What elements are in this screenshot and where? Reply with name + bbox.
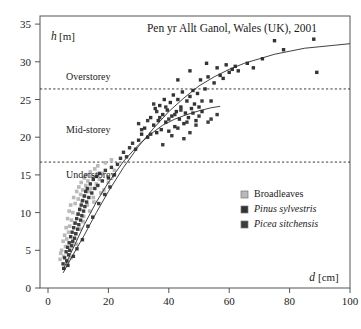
y-axis-label-unit: [m] — [59, 30, 75, 42]
data-point — [74, 232, 77, 235]
data-point — [169, 101, 172, 104]
data-point — [77, 185, 81, 189]
data-point — [161, 113, 164, 116]
data-point — [154, 107, 157, 110]
data-point — [66, 246, 69, 249]
data-point — [176, 98, 179, 101]
legend-swatch-broadleaves — [241, 191, 248, 198]
data-point — [143, 126, 146, 129]
data-point — [185, 120, 188, 123]
data-point — [93, 187, 96, 190]
data-point — [67, 230, 71, 234]
data-point — [131, 142, 134, 145]
data-point — [252, 66, 255, 69]
data-point — [77, 223, 80, 226]
data-point — [73, 237, 76, 240]
data-point — [69, 235, 72, 238]
data-point — [63, 256, 66, 259]
data-point — [182, 137, 185, 140]
data-point — [119, 157, 122, 160]
data-point — [146, 119, 149, 122]
data-point — [80, 203, 83, 206]
x-tick-label: 60 — [224, 295, 236, 307]
data-point — [167, 129, 170, 132]
legend-swatch-pinus-sylvestris — [241, 206, 248, 213]
data-point — [190, 107, 193, 110]
data-point — [82, 209, 85, 212]
data-point — [197, 105, 200, 108]
data-point — [188, 95, 191, 98]
data-point — [215, 66, 218, 69]
data-point — [158, 104, 161, 107]
y-tick-label: 20 — [20, 131, 32, 143]
data-point — [200, 99, 203, 102]
data-point — [158, 116, 161, 119]
y-tick-label: 15 — [20, 169, 32, 181]
data-point — [58, 258, 62, 262]
data-point — [282, 48, 285, 51]
x-tick-label: 20 — [103, 295, 115, 307]
data-point — [209, 117, 212, 120]
data-point — [215, 113, 218, 116]
data-point — [176, 126, 179, 129]
y-tick-label: 25 — [20, 94, 32, 106]
data-point — [203, 87, 206, 90]
data-point — [161, 143, 164, 146]
data-point — [167, 117, 170, 120]
data-point — [73, 221, 76, 224]
data-point — [63, 233, 67, 237]
data-point — [92, 196, 96, 200]
y-tick-label: 30 — [20, 56, 32, 68]
data-point — [170, 134, 173, 137]
data-point — [221, 77, 224, 80]
data-point — [312, 37, 315, 40]
data-point — [173, 125, 176, 128]
data-point — [188, 69, 191, 72]
data-point — [122, 151, 125, 154]
y-axis-label-symbol: h — [51, 30, 57, 42]
data-point — [155, 131, 158, 134]
x-axis-ticks — [48, 288, 350, 293]
data-point — [73, 202, 77, 206]
data-point — [72, 226, 75, 229]
data-point — [160, 128, 163, 131]
data-point — [89, 187, 93, 191]
x-tick-label: 40 — [163, 295, 175, 307]
data-point — [194, 123, 197, 126]
plot-frame — [40, 16, 350, 288]
data-point — [83, 194, 86, 197]
x-tick-label: 100 — [342, 295, 359, 307]
data-point — [116, 163, 119, 166]
data-point — [137, 139, 140, 142]
data-point — [224, 63, 227, 66]
legend-label-broadleaves: Broadleaves — [254, 188, 304, 199]
y-tick-label: 5 — [26, 244, 32, 256]
data-point — [78, 208, 81, 211]
data-point — [67, 241, 70, 244]
data-point — [194, 119, 197, 122]
data-point — [164, 105, 167, 108]
x-axis-label-unit: [cm] — [318, 271, 339, 283]
data-point — [70, 231, 73, 234]
data-point — [140, 128, 143, 131]
x-tick-label: 0 — [45, 295, 51, 307]
data-point — [61, 239, 65, 243]
data-point — [67, 209, 71, 213]
data-point — [64, 226, 68, 230]
data-point — [83, 205, 86, 208]
data-point — [128, 146, 131, 149]
data-point — [315, 71, 318, 74]
data-point — [187, 116, 190, 119]
data-point — [179, 105, 182, 108]
data-point — [77, 212, 80, 215]
data-point — [96, 164, 100, 168]
data-point — [149, 116, 152, 119]
data-point — [64, 250, 67, 253]
legend-label-pinus-sylvestris: Pinus sylvestris — [253, 203, 317, 214]
data-point — [206, 75, 209, 78]
data-point — [140, 132, 143, 135]
chart-figure: 05101520253035 020406080100 OverstoreyMi… — [0, 0, 361, 329]
data-point — [76, 197, 80, 201]
data-point — [212, 81, 215, 84]
data-point — [152, 102, 155, 105]
